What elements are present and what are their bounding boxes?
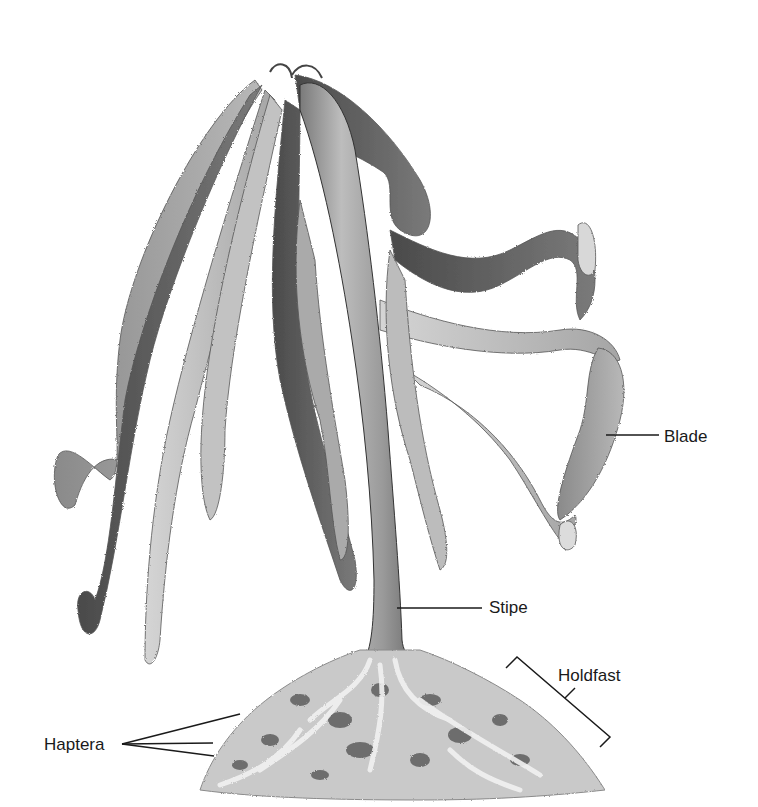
haptera-leader-3 [122,744,214,756]
stipe-label: Stipe [489,599,528,616]
haptera-leader-2 [122,743,213,744]
blade-hook-tip [578,223,596,275]
holdfast [200,650,605,800]
kelp-illustration [0,0,758,807]
blade-lower-right-tip [559,521,576,550]
haptera-leader-1 [122,714,240,744]
blade-wavy-right [390,230,595,320]
holdfast-label: Holdfast [558,667,620,684]
holdfast-bracket-tick [565,688,575,698]
blade-label: Blade [664,428,707,445]
haptera-label: Haptera [44,736,104,753]
blade-left-dark [78,85,262,634]
blade-right-hanging [558,348,624,520]
